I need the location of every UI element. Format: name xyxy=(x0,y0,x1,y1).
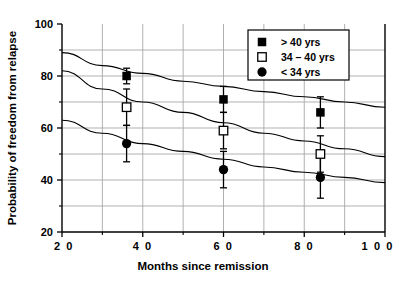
legend-label: 34 – 40 yrs xyxy=(281,51,335,63)
legend-label: < 34 yrs xyxy=(281,66,321,78)
legend-label: > 40 yrs xyxy=(281,36,321,48)
marker-open-square xyxy=(219,126,228,135)
relapse-probability-chart: 2 04 06 08 01 0 0 20406080100 Months sin… xyxy=(0,0,406,281)
chart-figure: 2 04 06 08 01 0 0 20406080100 Months sin… xyxy=(0,0,406,281)
marker-open-square xyxy=(316,150,325,159)
x-tick-label: 1 0 0 xyxy=(362,240,394,252)
marker-filled-square xyxy=(219,95,228,104)
marker-filled-circle xyxy=(316,173,325,182)
marker-filled-circle xyxy=(122,139,131,148)
y-tick-label: 100 xyxy=(35,18,53,30)
legend: > 40 yrs34 – 40 yrs< 34 yrs xyxy=(248,30,349,80)
marker-open-square xyxy=(122,103,131,112)
marker-filled-square xyxy=(122,72,131,81)
marker-filled-square xyxy=(316,108,325,117)
y-tick-label: 60 xyxy=(41,122,53,134)
y-tick-label: 80 xyxy=(41,70,53,82)
x-tick-label: 6 0 xyxy=(213,240,233,252)
y-axis-title: Probability of freedom from relapse xyxy=(6,31,18,225)
x-tick-label: 4 0 xyxy=(133,240,153,252)
y-tick-label: 40 xyxy=(41,174,53,186)
x-tick-label: 2 0 xyxy=(54,240,74,252)
x-axis-title: Months since remission xyxy=(137,260,268,272)
marker-filled-square xyxy=(258,38,267,47)
x-tick-label: 8 0 xyxy=(294,240,314,252)
marker-filled-circle xyxy=(219,165,228,174)
marker-open-square xyxy=(258,53,267,62)
marker-filled-circle xyxy=(257,67,266,76)
y-tick-label: 20 xyxy=(41,226,53,238)
